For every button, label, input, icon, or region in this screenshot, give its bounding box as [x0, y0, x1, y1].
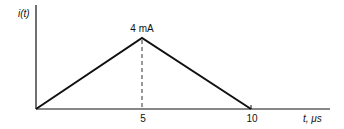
x-tick-label-5: 5	[140, 113, 146, 124]
y-axis-label: i(t)	[18, 8, 30, 19]
current-waveform-chart: i(t) 4 mA 5 10 t, μs	[0, 0, 344, 129]
peak-label: 4 mA	[130, 23, 154, 34]
triangle-waveform	[36, 38, 251, 109]
x-axis-label: t, μs	[303, 113, 322, 124]
x-tick-label-10: 10	[246, 113, 258, 124]
